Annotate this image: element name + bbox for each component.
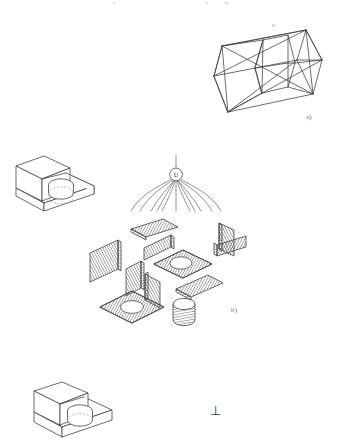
solid-block-bottom bbox=[28, 382, 118, 442]
scan-speck bbox=[206, 2, 208, 4]
scan-speck bbox=[113, 2, 115, 4]
csg-union-node: U bbox=[128, 153, 224, 215]
caption-b: b) bbox=[231, 306, 237, 314]
face-inner-left bbox=[126, 261, 144, 296]
caption-a: a) bbox=[306, 113, 312, 121]
face-front-lower bbox=[176, 275, 223, 300]
face-top-with-hole bbox=[154, 250, 212, 278]
boundary-rep-exploded bbox=[88, 216, 248, 332]
perpendicular-symbol: ⊥ bbox=[210, 404, 221, 417]
cylinder-boss bbox=[173, 298, 195, 325]
wireframe-box bbox=[200, 24, 330, 120]
solid-block-top bbox=[12, 146, 100, 218]
union-operator-label: U bbox=[174, 171, 179, 178]
scan-speck bbox=[225, 2, 228, 4]
face-left-outer bbox=[90, 240, 121, 282]
